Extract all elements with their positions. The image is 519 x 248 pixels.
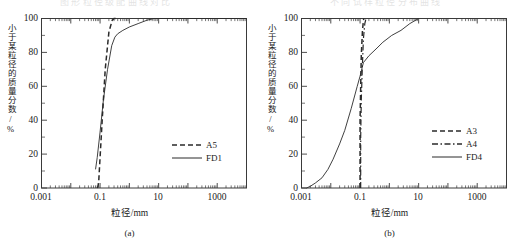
x-axis-label-b: 粒径/mm [260, 205, 519, 219]
legend-key-dashdot-a4 [432, 139, 462, 149]
legend-label-a5: A5 [206, 140, 217, 150]
caption-a: (a) [0, 228, 259, 238]
x-tick-a-10: 10 [153, 192, 163, 202]
legend-key-dashed-a3 [432, 126, 462, 136]
caption-b: (b) [260, 228, 519, 238]
x-tick-a-0001: 0.001 [30, 192, 51, 202]
legend-item-a4: A4 [432, 137, 482, 150]
legend-b: A3 A4 FD4 [432, 124, 482, 163]
chart-panel-b: 小于某粒径的质量分数/% 100 80 60 40 20 0 [260, 0, 519, 248]
legend-item-a3: A3 [432, 124, 482, 137]
x-axis-label-a: 粒径/mm [0, 205, 259, 219]
x-tick-b-1000: 1000 [468, 192, 487, 202]
legend-label-fd1: FD1 [206, 153, 222, 163]
legend-key-solid-fd4 [432, 152, 462, 162]
x-tick-a-01: 0.1 [94, 192, 106, 202]
curve-fd4 [307, 19, 419, 189]
legend-label-fd4: FD4 [466, 152, 482, 162]
x-tick-b-10: 10 [413, 192, 423, 202]
legend-item-fd1: FD1 [172, 151, 222, 164]
legend-label-a3: A3 [466, 126, 477, 136]
chart-panel-a: 小于某粒径的质量分数/% 100 80 60 40 20 0 [0, 0, 259, 248]
legend-item-a5: A5 [172, 138, 222, 151]
figure-container: 图 形 粒 径 级 配 曲 线 对 比 不 同 试 样 粒 径 分 布 曲 线 … [0, 0, 519, 248]
x-tick-b-0001: 0.001 [290, 192, 311, 202]
x-tick-a-1000: 1000 [208, 192, 227, 202]
legend-label-a4: A4 [466, 139, 477, 149]
y-ticks-b [302, 19, 308, 189]
legend-a: A5 FD1 [172, 138, 222, 164]
legend-key-dashed-a5 [172, 140, 202, 150]
legend-item-fd4: FD4 [432, 150, 482, 163]
curve-a5 [97, 19, 117, 189]
y-ticks-a [42, 19, 48, 189]
legend-key-solid-fd1 [172, 153, 202, 163]
x-tick-b-01: 0.1 [354, 192, 366, 202]
